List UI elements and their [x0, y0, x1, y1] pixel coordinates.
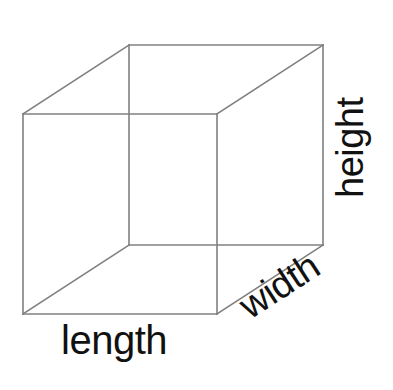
edge-depth-top-right	[217, 45, 323, 114]
edge-depth-top-left	[23, 45, 129, 114]
dimension-label-length: length	[61, 320, 167, 360]
dimension-label-height: height	[331, 97, 369, 198]
diagram-canvas: length width height	[0, 0, 393, 390]
edge-depth-bottom-left	[23, 245, 129, 314]
